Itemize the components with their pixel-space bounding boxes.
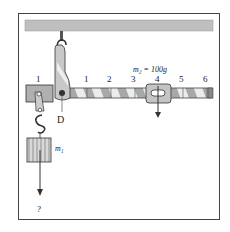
pivot-label: D [57,114,64,125]
scale-label-1: 1 [84,74,89,84]
unknown-label: ? [37,204,41,214]
scale-label-3: 3 [131,74,136,84]
steelyard-diagram: D m₁ ? m₂ = 100g 1 1 2 3 4 5 6 [0,0,230,232]
ceiling-bar [25,20,213,31]
scale-label-5: 5 [179,74,184,84]
scale-label-4: 4 [155,74,160,84]
scale-label-left-1: 1 [36,74,41,84]
hanging-mass-label: m₁ [55,144,64,153]
slider-mass-label: m₂ = 100g [133,65,167,74]
pivot-point [59,90,65,96]
hanging-mass [27,138,51,162]
scale-label-6: 6 [203,74,208,84]
slider-weight [146,84,171,118]
beam [64,88,213,98]
scale-label-2: 2 [107,74,112,84]
